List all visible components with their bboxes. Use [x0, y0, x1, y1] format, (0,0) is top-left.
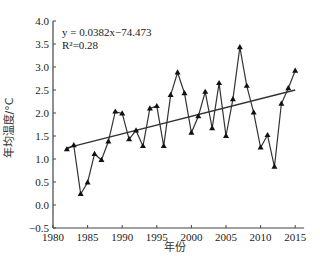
x-tick-label: 2010	[250, 231, 273, 243]
y-tick-label: 2.0	[35, 107, 49, 119]
temperature-trend-chart: −0.50.00.51.01.52.02.53.03.54.0 19801985…	[0, 0, 320, 256]
y-axis-ticks: −0.50.00.51.01.52.02.53.03.54.0	[29, 15, 56, 234]
y-tick-label: 0.0	[35, 199, 49, 211]
triangle-marker	[209, 125, 215, 130]
y-tick-label: 0.5	[35, 176, 49, 188]
y-axis-title: 年均温度/°C	[2, 97, 16, 158]
y-tick-label: 3.5	[35, 38, 49, 50]
x-tick-label: 1980	[42, 231, 65, 243]
triangle-marker	[216, 80, 222, 85]
triangle-marker	[105, 138, 111, 143]
triangle-marker	[175, 69, 181, 74]
triangle-marker	[112, 108, 118, 113]
triangle-marker	[251, 109, 257, 114]
triangle-marker	[237, 44, 243, 49]
triangle-marker	[188, 130, 194, 135]
y-tick-label: 2.5	[35, 84, 49, 96]
trend-line	[67, 90, 295, 148]
y-tick-label: 1.5	[35, 130, 49, 142]
x-tick-label: 2015	[284, 231, 307, 243]
triangle-marker	[92, 151, 98, 156]
equation-label: y = 0.0382x−74.473	[62, 26, 152, 38]
triangle-marker	[202, 89, 208, 94]
y-tick-label: 3.0	[35, 61, 49, 73]
y-tick-label: 1.0	[35, 153, 49, 165]
x-tick-label: 1990	[111, 231, 134, 243]
triangle-marker	[140, 143, 146, 148]
triangle-marker	[258, 144, 264, 149]
triangle-marker	[161, 143, 167, 148]
triangle-marker	[223, 133, 229, 138]
triangle-marker	[85, 179, 91, 184]
x-axis-title: 年份	[164, 240, 186, 254]
triangle-marker	[154, 103, 160, 108]
temperature-series	[64, 44, 298, 196]
axes	[53, 21, 304, 228]
triangle-marker	[230, 96, 236, 101]
triangle-marker	[71, 142, 77, 147]
x-tick-label: 2005	[215, 231, 238, 243]
x-tick-label: 1985	[77, 231, 100, 243]
triangle-marker	[278, 101, 284, 106]
triangle-marker	[265, 132, 271, 137]
y-tick-label: 4.0	[35, 15, 49, 27]
triangle-marker	[292, 67, 298, 72]
r-squared-label: R²=0.28	[62, 39, 99, 51]
triangle-marker	[181, 90, 187, 95]
triangle-marker	[244, 83, 250, 88]
triangle-marker	[168, 92, 174, 97]
triangle-marker	[285, 85, 291, 90]
triangle-marker	[271, 164, 277, 169]
